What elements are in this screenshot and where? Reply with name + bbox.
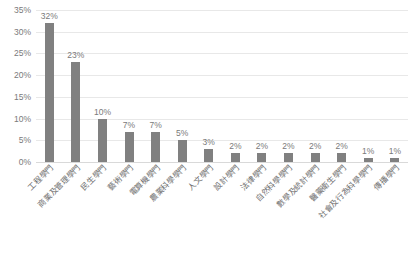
- bar[interactable]: [125, 132, 134, 162]
- bar-slot: 10%: [89, 10, 116, 162]
- bar-value-label: 7%: [123, 121, 135, 130]
- bar[interactable]: [390, 158, 399, 162]
- bar-value-label: 1%: [389, 147, 401, 156]
- bar-value-label: 5%: [176, 129, 188, 138]
- bar[interactable]: [337, 153, 346, 162]
- bar-chart: 35%30%25%20%15%10%5%0% 32%23%10%7%7%5%3%…: [0, 0, 411, 273]
- y-axis: 35%30%25%20%15%10%5%0%: [0, 0, 34, 166]
- bar[interactable]: [257, 153, 266, 162]
- bar[interactable]: [178, 140, 187, 162]
- bar-value-label: 2%: [282, 142, 294, 151]
- bar[interactable]: [98, 119, 107, 162]
- bar[interactable]: [204, 149, 213, 162]
- x-axis-tick-label: 傳播學門: [372, 163, 401, 192]
- bar-value-label: 2%: [256, 142, 268, 151]
- bar-slot: 1%: [382, 10, 409, 162]
- bar-value-label: 32%: [41, 12, 58, 21]
- bar-slot: 7%: [142, 10, 169, 162]
- bar[interactable]: [364, 158, 373, 162]
- bar[interactable]: [45, 23, 54, 162]
- y-axis-tick-label: 25%: [0, 49, 31, 58]
- y-axis-tick-label: 5%: [0, 136, 31, 145]
- bar-slot: 3%: [195, 10, 222, 162]
- x-axis-tick-label: 人文學門: [186, 163, 215, 192]
- plot-area: 32%23%10%7%7%5%3%2%2%2%2%2%1%1%: [36, 10, 408, 162]
- y-axis-tick-label: 10%: [0, 115, 31, 124]
- bar-slot: 2%: [275, 10, 302, 162]
- bar[interactable]: [311, 153, 320, 162]
- bar-slot: 23%: [63, 10, 90, 162]
- bar[interactable]: [284, 153, 293, 162]
- bar-value-label: 10%: [94, 108, 111, 117]
- y-axis-tick-label: 0%: [0, 158, 31, 167]
- bar-value-label: 3%: [203, 138, 215, 147]
- bar-value-label: 7%: [149, 121, 161, 130]
- x-axis-tick-label: 民生學門: [80, 163, 109, 192]
- bar[interactable]: [71, 62, 80, 162]
- x-axis-tick-label: 設計學門: [213, 163, 242, 192]
- bar-slot: 7%: [116, 10, 143, 162]
- y-axis-tick-label: 20%: [0, 71, 31, 80]
- bar-slot: 2%: [328, 10, 355, 162]
- bar-slot: 2%: [249, 10, 276, 162]
- bar-value-label: 2%: [335, 142, 347, 151]
- x-axis-category-labels: 工程學門商業及管理學門民生學門藝術學門電算機學門農業科學學門人文學門設計學門法律…: [36, 163, 408, 273]
- y-axis-tick-label: 35%: [0, 6, 31, 15]
- bar-slot: 2%: [302, 10, 329, 162]
- bar-slot: 2%: [222, 10, 249, 162]
- bar-value-label: 2%: [309, 142, 321, 151]
- bar-value-label: 2%: [229, 142, 241, 151]
- bar-series: 32%23%10%7%7%5%3%2%2%2%2%2%1%1%: [36, 10, 408, 162]
- bar-slot: 1%: [355, 10, 382, 162]
- y-axis-tick-label: 15%: [0, 93, 31, 102]
- bar-slot: 5%: [169, 10, 196, 162]
- bar[interactable]: [151, 132, 160, 162]
- bar[interactable]: [231, 153, 240, 162]
- y-axis-tick-label: 30%: [0, 28, 31, 37]
- bar-slot: 32%: [36, 10, 63, 162]
- bar-value-label: 23%: [67, 51, 84, 60]
- bar-value-label: 1%: [362, 147, 374, 156]
